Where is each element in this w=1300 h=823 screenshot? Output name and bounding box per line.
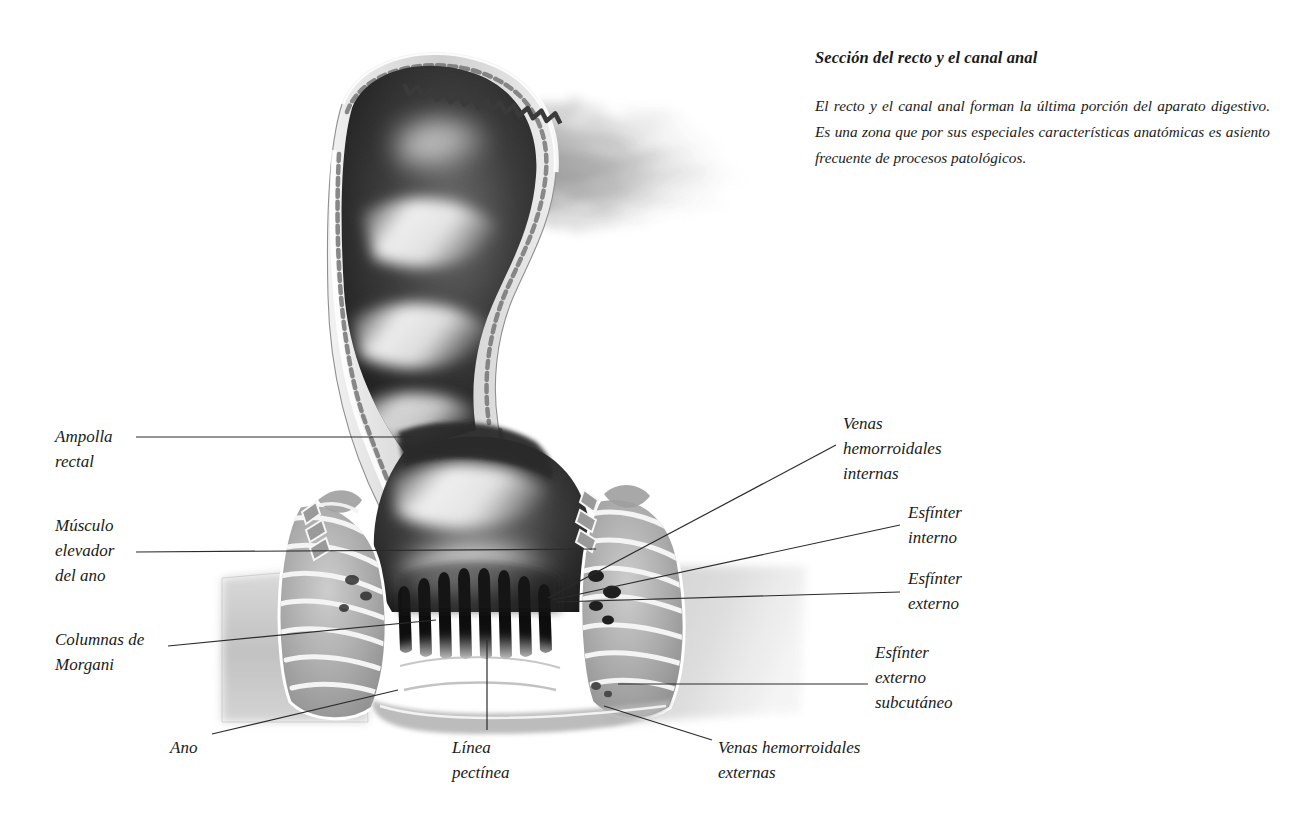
- mucosal-crest: [402, 84, 562, 124]
- anal-canal-pecten: [392, 633, 568, 708]
- label-ano: Ano: [170, 735, 197, 760]
- levator-digitations-left: [302, 502, 330, 560]
- external-sphincter-subcutaneous: [372, 700, 672, 734]
- leader-musculo-elevador: [136, 549, 596, 552]
- illustration-page: Sección del recto y el canal anal El rec…: [0, 0, 1300, 823]
- rectal-ampulla-lumen: [370, 420, 610, 630]
- rectal-lumen-upper: [330, 50, 570, 470]
- leader-venas-internas: [548, 445, 836, 598]
- levator-ani-left: [279, 490, 386, 718]
- label-esfinter-externo-subcutaneo: Esfínter externo subcutáneo: [875, 640, 952, 715]
- leader-columnas-morgani: [168, 620, 436, 646]
- label-esfinter-interno: Esfínter interno: [908, 500, 962, 550]
- leader-esfinter-externo: [556, 592, 900, 602]
- mesorectum-tissue: [450, 104, 750, 231]
- label-esfinter-externo: Esfínter externo: [908, 566, 962, 616]
- lumen-bridge: [398, 422, 553, 480]
- leader-venas-externas: [604, 706, 712, 740]
- leader-ano: [212, 690, 398, 734]
- label-linea-pectinea: Línea pectínea: [452, 735, 510, 785]
- muscularis-layer: [338, 65, 548, 528]
- perineal-tissue: [222, 566, 806, 724]
- label-musculo-elevador-del-ano: Músculo elevador del ano: [55, 513, 114, 588]
- label-venas-hemorroidales-externas: Venas hemorroidales externas: [718, 735, 860, 785]
- label-venas-hemorroidales-internas: Venas hemorroidales internas: [843, 411, 942, 486]
- hemorrhoidal-veins-external-dots: [591, 682, 612, 697]
- anal-columns-morgani: [398, 561, 560, 659]
- page-description: El recto y el canal anal forman la últim…: [815, 93, 1270, 171]
- rectal-wall: [328, 53, 557, 560]
- leader-lines: [136, 437, 900, 740]
- label-ampolla-rectal: Ampolla rectal: [55, 424, 113, 474]
- leader-esfinter-interno: [552, 525, 900, 600]
- hemorrhoidal-veins-internal-dots: [588, 570, 621, 625]
- label-columnas-de-morgani: Columnas de Morgani: [55, 627, 144, 677]
- page-title: Sección del recto y el canal anal: [815, 48, 1255, 68]
- levator-ani-right: [576, 485, 684, 719]
